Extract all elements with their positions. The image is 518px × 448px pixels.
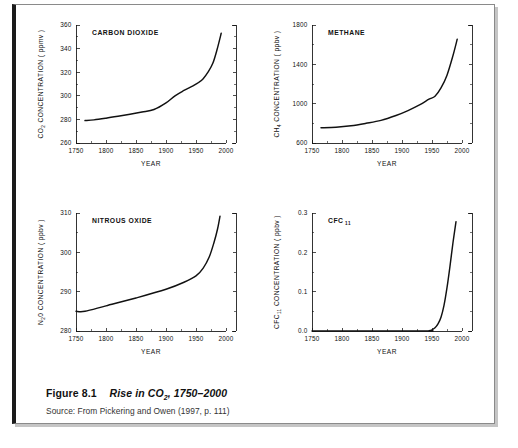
svg-text:0.1: 0.1 — [298, 288, 308, 295]
svg-text:1750: 1750 — [68, 147, 83, 154]
svg-text:1850: 1850 — [128, 147, 143, 154]
panel-methane: 600100014001800175018001850190019502000M… — [266, 11, 486, 189]
svg-text:310: 310 — [60, 209, 72, 216]
svg-text:260: 260 — [60, 139, 72, 146]
svg-text:300: 300 — [60, 92, 72, 99]
svg-text:1400: 1400 — [292, 61, 307, 68]
x-axis-title-methane: YEAR — [377, 160, 397, 167]
svg-text:1800: 1800 — [98, 335, 113, 342]
y-axis-title-methane: CH4 CONCENTRATION ( ppbv ) — [273, 31, 282, 138]
svg-text:1950: 1950 — [188, 335, 203, 342]
svg-text:1850: 1850 — [364, 335, 379, 342]
data-curve-carbon-dioxide — [85, 33, 221, 120]
svg-text:1800: 1800 — [334, 335, 349, 342]
svg-text:2000: 2000 — [218, 147, 233, 154]
figure-source: Source: From Pickering and Owen (1997, p… — [46, 406, 494, 416]
panel-carbon-dioxide: 2602803003203403601750180018501900195020… — [30, 11, 250, 189]
svg-text:320: 320 — [60, 69, 72, 76]
svg-text:0.2: 0.2 — [298, 249, 308, 256]
svg-text:1950: 1950 — [188, 147, 203, 154]
panel-title-cfc-11: CFC11 — [328, 217, 351, 226]
x-axis-title-carbon-dioxide: YEAR — [141, 160, 161, 167]
svg-text:1800: 1800 — [334, 147, 349, 154]
figure-number: Figure 8.1 — [46, 387, 97, 399]
svg-text:1900: 1900 — [394, 147, 409, 154]
svg-text:1950: 1950 — [424, 335, 439, 342]
chart-panel-grid: 2602803003203403601750180018501900195020… — [16, 5, 494, 377]
svg-text:1900: 1900 — [158, 147, 173, 154]
panel-title-carbon-dioxide: CARBON DIOXIDE — [92, 29, 159, 36]
svg-text:340: 340 — [60, 45, 72, 52]
svg-text:1950: 1950 — [424, 147, 439, 154]
svg-text:290: 290 — [60, 288, 72, 295]
svg-text:2000: 2000 — [454, 147, 469, 154]
svg-text:1750: 1750 — [304, 335, 319, 342]
y-axis-title-cfc-11: CFC11 CONCENTRATION ( ppbv ) — [273, 215, 282, 329]
svg-text:360: 360 — [60, 21, 72, 28]
svg-text:1800: 1800 — [98, 147, 113, 154]
caption-title-line: Figure 8.1Rise in CO2, 1750–2000 — [46, 383, 494, 401]
svg-text:280: 280 — [60, 116, 72, 123]
data-curve-nitrous-oxide — [76, 216, 220, 312]
data-curve-methane — [321, 39, 457, 128]
panel-title-methane: METHANE — [328, 29, 365, 36]
svg-text:1750: 1750 — [68, 335, 83, 342]
svg-text:0.0: 0.0 — [298, 327, 308, 334]
svg-text:1900: 1900 — [394, 335, 409, 342]
svg-text:300: 300 — [60, 249, 72, 256]
svg-text:600: 600 — [296, 139, 308, 146]
figure-title: Rise in CO2, 1750–2000 — [110, 387, 228, 399]
svg-text:1750: 1750 — [304, 147, 319, 154]
panel-nitrous-oxide: 280290300310175018001850190019502000NITR… — [30, 199, 250, 377]
svg-text:1000: 1000 — [292, 100, 307, 107]
svg-text:2000: 2000 — [218, 335, 233, 342]
svg-text:1800: 1800 — [292, 21, 307, 28]
svg-text:1900: 1900 — [158, 335, 173, 342]
x-axis-title-cfc-11: YEAR — [377, 348, 397, 355]
svg-text:1850: 1850 — [128, 335, 143, 342]
figure-caption: Figure 8.1Rise in CO2, 1750–2000 Source:… — [16, 377, 494, 416]
y-axis-title-carbon-dioxide: CO2 CONCENTRATION ( ppmv ) — [37, 29, 46, 138]
svg-text:0.3: 0.3 — [298, 209, 308, 216]
x-axis-title-nitrous-oxide: YEAR — [141, 348, 161, 355]
panel-title-nitrous-oxide: NITROUS OXIDE — [92, 217, 152, 224]
svg-text:2000: 2000 — [454, 335, 469, 342]
panel-cfc-11: 0.00.10.20.3175018001850190019502000CFC1… — [266, 199, 486, 377]
y-axis-title-nitrous-oxide: N20 CONCENTRATION ( ppbv ) — [37, 219, 46, 325]
svg-text:1850: 1850 — [364, 147, 379, 154]
figure-box: 2602803003203403601750180018501900195020… — [12, 4, 495, 424]
svg-text:280: 280 — [60, 327, 72, 334]
data-curve-cfc-11 — [312, 222, 456, 331]
